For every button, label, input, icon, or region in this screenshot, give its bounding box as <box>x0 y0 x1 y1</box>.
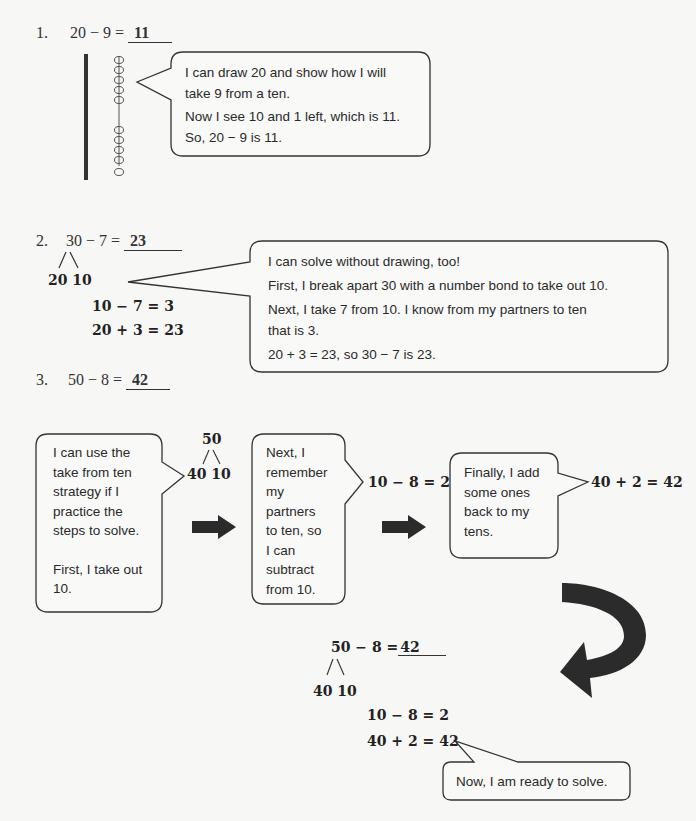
curved-arrow-icon <box>560 580 660 705</box>
flow-step-1: 10 − 8 = 2 <box>368 474 450 490</box>
summary-bond-parts: 40 10 <box>313 683 357 699</box>
bond-top: 50 <box>202 431 221 447</box>
right-arrow-icon <box>380 514 428 540</box>
right-arrow-icon <box>190 514 238 540</box>
summary-step-1: 10 − 8 = 2 <box>367 707 449 723</box>
flow-bubble-1: I can use the take from ten strategy if … <box>53 443 142 599</box>
summary-step-2: 40 + 2 = 42 <box>367 733 459 749</box>
summary-bubble: Now, I am ready to solve. <box>456 771 608 792</box>
summary-header: 50 − 8 =42 <box>331 639 446 656</box>
bond-parts: 40 10 <box>187 466 231 482</box>
flow-bubble-2: Next, I remember my partners to ten, so … <box>266 443 328 599</box>
flow-bubble-3: Finally, I add some ones back to my tens… <box>464 463 540 541</box>
bond-lines <box>198 448 228 466</box>
summary-bond-lines <box>322 657 352 677</box>
flow-step-2: 40 + 2 = 42 <box>591 474 683 490</box>
